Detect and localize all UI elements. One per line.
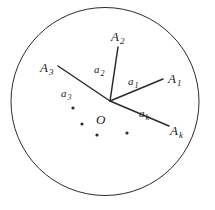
label-text: A — [168, 71, 176, 86]
label-arm-a1: a1 — [128, 72, 138, 88]
label-arm-a3: a3 — [61, 84, 71, 100]
label-text: a — [128, 75, 134, 87]
label-text: A — [170, 123, 178, 138]
label-subscript: 1 — [177, 78, 182, 88]
label-endpoint-Ak: Ak — [170, 122, 182, 138]
ellipsis-dot — [95, 133, 98, 136]
ray-a2 — [110, 47, 118, 101]
boundary-circle — [11, 8, 199, 196]
label-text: a — [61, 87, 67, 99]
label-arm-ak: ak — [139, 104, 148, 120]
label-subscript: 1 — [135, 81, 139, 90]
label-endpoint-A2: A2 — [111, 28, 123, 44]
label-subscript: 2 — [101, 69, 105, 78]
figure-canvas — [0, 0, 215, 210]
ellipsis-dot — [80, 122, 83, 125]
label-text: a — [139, 107, 145, 119]
label-text: a — [94, 63, 100, 75]
label-text: A — [111, 29, 119, 44]
label-subscript: 3 — [68, 93, 72, 102]
ray-group — [58, 47, 169, 126]
label-subscript: 2 — [120, 36, 125, 46]
geometry-figure: O A1 A2 A3 Ak a1 a2 a3 ak — [0, 0, 215, 210]
label-subscript: k — [179, 130, 183, 140]
label-subscript: 3 — [49, 67, 54, 77]
label-text: A — [40, 60, 48, 75]
label-text: O — [96, 112, 105, 127]
ellipsis-dot — [71, 106, 74, 109]
label-endpoint-A1: A1 — [168, 70, 180, 86]
label-arm-a2: a2 — [94, 60, 104, 76]
label-center-O: O — [96, 111, 105, 127]
label-endpoint-A3: A3 — [40, 59, 52, 75]
ellipsis-dot — [125, 131, 128, 134]
label-subscript: k — [146, 113, 150, 122]
